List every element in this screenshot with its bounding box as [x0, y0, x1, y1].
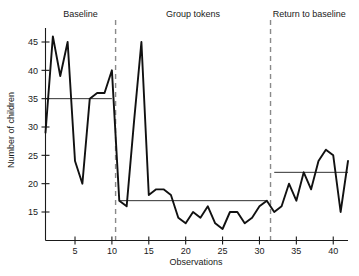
- x-tick-label: 20: [181, 246, 191, 256]
- x-tick-label: 15: [144, 246, 154, 256]
- phase-label: Baseline: [63, 9, 98, 19]
- y-tick-label: 40: [28, 66, 38, 76]
- y-tick-label: 30: [28, 122, 38, 132]
- x-tick-label: 40: [328, 246, 338, 256]
- line-chart: BaselineGroup tokensReturn to baseline 1…: [0, 0, 359, 276]
- chart-container: BaselineGroup tokensReturn to baseline 1…: [0, 0, 359, 276]
- y-tick-label: 35: [28, 94, 38, 104]
- x-tick-label: 25: [218, 246, 228, 256]
- phase-label: Group tokens: [166, 9, 221, 19]
- x-tick-label: 30: [254, 246, 264, 256]
- x-tick-label: 35: [291, 246, 301, 256]
- y-axis-title: Number of children: [6, 92, 16, 168]
- y-tick-label: 20: [28, 179, 38, 189]
- y-tick-label: 45: [28, 37, 38, 47]
- y-tick-label: 25: [28, 151, 38, 161]
- x-tick-label: 10: [107, 246, 117, 256]
- x-tick-label: 5: [73, 246, 78, 256]
- y-tick-label: 15: [28, 207, 38, 217]
- phase-label: Return to baseline: [273, 9, 346, 19]
- x-axis-title: Observations: [169, 257, 223, 267]
